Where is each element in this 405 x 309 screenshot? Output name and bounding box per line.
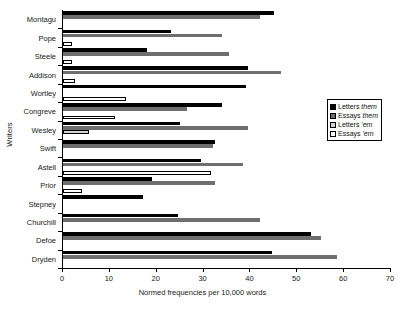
y-tick-label: Wortley — [31, 88, 56, 97]
y-tick — [58, 250, 62, 251]
legend-swatch-icon — [330, 113, 336, 119]
bar — [63, 42, 72, 46]
legend-label: Letters 'em — [338, 121, 372, 128]
bar — [63, 218, 260, 222]
x-tick-label: 20 — [152, 274, 160, 283]
x-axis-title: Normed frequencies per 10,000 words — [0, 288, 405, 297]
x-tick — [62, 268, 63, 272]
bar — [63, 116, 115, 120]
legend-swatch-icon — [330, 104, 336, 110]
y-tick — [58, 28, 62, 29]
x-tick — [296, 268, 297, 272]
y-tick — [58, 194, 62, 195]
bar — [63, 15, 260, 19]
legend-item[interactable]: Essays them — [330, 111, 378, 120]
y-tick-label: Steele — [35, 52, 56, 61]
y-tick-label: Prior — [40, 181, 56, 190]
y-tick-label: Addison — [29, 70, 56, 79]
x-tick — [156, 268, 157, 272]
y-tick — [58, 47, 62, 48]
x-tick — [390, 268, 391, 272]
bar — [63, 130, 89, 134]
x-tick-label: 40 — [245, 274, 253, 283]
bar — [63, 163, 243, 167]
bar — [63, 60, 72, 64]
x-tick-label: 10 — [105, 274, 113, 283]
y-axis-title: Writers — [5, 105, 14, 165]
bar — [63, 66, 248, 70]
y-tick-label: Wesley — [32, 125, 56, 134]
bar — [63, 255, 337, 259]
y-tick-label: Defoe — [36, 236, 56, 245]
legend-swatch-icon — [330, 131, 336, 137]
x-axis-line — [62, 268, 390, 269]
bar — [63, 107, 187, 111]
legend-item[interactable]: Letters them — [330, 102, 378, 111]
y-tick — [58, 268, 62, 269]
bar — [63, 159, 201, 163]
x-tick — [203, 268, 204, 272]
legend-swatch-icon — [330, 122, 336, 128]
y-tick — [58, 213, 62, 214]
y-tick-label: Swift — [40, 144, 56, 153]
y-tick-label: Congreve — [23, 107, 56, 116]
legend-label: Letters them — [338, 103, 377, 110]
bar — [63, 126, 248, 130]
y-tick-label: Stepney — [28, 199, 56, 208]
x-tick-label: 60 — [339, 274, 347, 283]
y-tick — [58, 176, 62, 177]
bar — [63, 97, 126, 101]
y-tick — [58, 121, 62, 122]
bar — [63, 195, 143, 199]
x-tick-label: 0 — [60, 274, 64, 283]
legend-label: Essays 'em — [338, 130, 374, 137]
y-tick-label: Astell — [38, 162, 56, 171]
x-tick — [343, 268, 344, 272]
y-tick-label: Dryden — [32, 254, 56, 263]
bar — [63, 144, 213, 148]
bar — [63, 48, 147, 52]
bar-chart: Writers 010203040506070 MontaguPopeSteel… — [0, 0, 405, 309]
bar — [63, 79, 75, 83]
bar — [63, 85, 246, 89]
bar — [63, 177, 152, 181]
legend-item[interactable]: Letters 'em — [330, 120, 378, 129]
x-tick — [109, 268, 110, 272]
x-tick — [249, 268, 250, 272]
legend-item[interactable]: Essays 'em — [330, 129, 378, 138]
bar — [63, 30, 171, 34]
bar — [63, 251, 272, 255]
y-tick-label: Pope — [38, 33, 56, 42]
bar — [63, 11, 274, 15]
bar — [63, 71, 281, 75]
bar — [63, 122, 180, 126]
y-tick — [58, 157, 62, 158]
y-tick-label: Montagu — [27, 15, 56, 24]
x-tick-label: 50 — [292, 274, 300, 283]
bar — [63, 103, 222, 107]
bar — [63, 236, 321, 240]
bar — [63, 181, 215, 185]
y-tick — [58, 65, 62, 66]
bar — [63, 232, 311, 236]
x-tick-label: 70 — [386, 274, 394, 283]
legend: Letters themEssays themLetters 'emEssays… — [327, 99, 382, 141]
x-tick-label: 30 — [198, 274, 206, 283]
bar — [63, 34, 222, 38]
y-tick — [58, 139, 62, 140]
bar — [63, 52, 229, 56]
bar — [63, 214, 178, 218]
bar — [63, 189, 82, 193]
legend-label: Essays them — [338, 112, 378, 119]
bar — [63, 140, 215, 144]
y-tick-label: Churchill — [27, 217, 56, 226]
bar — [63, 171, 211, 175]
y-tick — [58, 102, 62, 103]
y-tick — [58, 84, 62, 85]
y-tick — [58, 231, 62, 232]
